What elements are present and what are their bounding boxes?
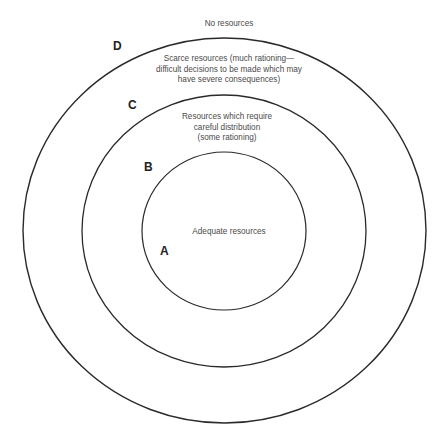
zone-d-text: No resources bbox=[205, 19, 254, 30]
zone-d-line-1: No resources bbox=[205, 19, 254, 30]
zone-a-line-1: Adequate resources bbox=[192, 227, 265, 238]
zone-b-text: Resources which require careful distribu… bbox=[182, 112, 272, 144]
zone-c-line-3: have severe consequences) bbox=[156, 75, 302, 86]
zone-b-letter: B bbox=[144, 160, 153, 174]
zone-c-line-1: Scarce resources (much rationing— bbox=[156, 54, 302, 65]
zone-d-letter: D bbox=[113, 39, 122, 53]
zone-b-line-2: careful distribution bbox=[182, 123, 272, 134]
zone-c-letter: C bbox=[128, 98, 137, 112]
zone-c-text: Scarce resources (much rationing— diffic… bbox=[156, 54, 302, 86]
zone-a-letter: A bbox=[160, 244, 169, 258]
zone-b-line-3: (some rationing) bbox=[182, 133, 272, 144]
zone-a-text: Adequate resources bbox=[192, 227, 265, 238]
zone-b-line-1: Resources which require bbox=[182, 112, 272, 123]
zone-c-line-2: difficult decisions to be made which may bbox=[156, 65, 302, 76]
